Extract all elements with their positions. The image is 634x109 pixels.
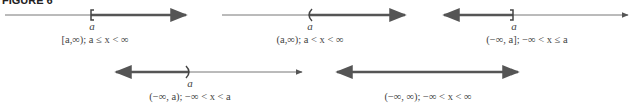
endpoint-label-3: a: [511, 20, 517, 32]
number-line-1: [5, 10, 186, 20]
number-line-3: [444, 10, 628, 20]
endpoint-label-1: a: [89, 20, 95, 32]
endpoint-label-2: a: [307, 20, 313, 32]
interval-caption-1: [a,∞); a ≤ x < ∞: [62, 34, 129, 45]
number-line-4: [116, 66, 302, 78]
number-line-2: [222, 9, 405, 21]
interval-caption-4: (−∞, a); −∞ < x < a: [149, 91, 231, 102]
number-lines: [0, 0, 634, 109]
endpoint-label-4: a: [187, 77, 193, 89]
interval-caption-5: (−∞, ∞); −∞ < x < ∞: [384, 91, 471, 102]
interval-caption-3: (−∞, a]; −∞ < x ≤ a: [486, 34, 567, 45]
interval-caption-2: (a,∞); a < x < ∞: [276, 34, 343, 45]
